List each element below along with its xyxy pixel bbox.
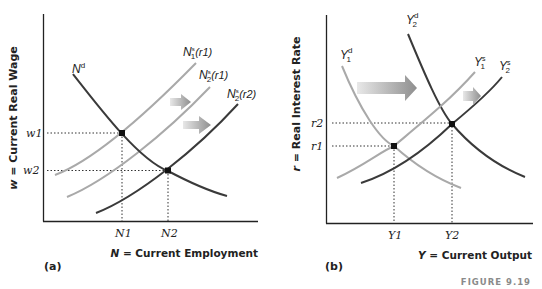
equilibrium-point-1	[119, 130, 125, 136]
tick-r1: r1	[311, 140, 323, 153]
label-y1d: Yd1	[340, 46, 352, 64]
tick-n2: N2	[160, 227, 178, 240]
figure-caption: FIGURE 9.19	[461, 277, 531, 287]
label-y2s: Ys2	[499, 59, 511, 75]
panel-a-y-axis-label: w = Current Real Wage	[7, 46, 20, 190]
figure-canvas: w = Current Real Wage Nd Ns1(r1) Ns2(r1)…	[0, 0, 542, 289]
curve-y2d	[408, 34, 525, 177]
panel-b-label: (b)	[325, 260, 343, 273]
curve-n2s-r2	[96, 104, 238, 213]
equilibrium-point-2	[449, 121, 455, 127]
shift-arrow-icon	[183, 116, 211, 134]
label-y1s: Ys1	[474, 55, 486, 71]
tick-w1: w1	[26, 127, 42, 140]
label-y2d: Yd2	[406, 11, 418, 29]
equilibrium-point-2	[165, 168, 171, 174]
tick-n1: N1	[114, 227, 132, 240]
panel-b-y-axis-label: r = Real Interest Rate	[290, 36, 303, 171]
label-n1s-r1: Ns1(r1)	[183, 45, 213, 61]
panel-a-label: (a)	[44, 260, 61, 273]
curve-n1s-r1	[55, 63, 196, 175]
panel-b: r = Real Interest Rate Yd1 Yd2 Ys1 Ys2 r…	[290, 11, 533, 273]
panel-b-x-axis-label: Y = Current Output	[418, 249, 532, 261]
tick-w2: w2	[23, 164, 39, 177]
tick-y1: Y1	[388, 229, 402, 242]
equilibrium-point-1	[391, 143, 397, 149]
panel-a-x-axis-label: N = Current Employment	[110, 247, 258, 259]
shift-arrow-large-icon	[357, 75, 417, 101]
label-nd: Nd	[72, 61, 85, 76]
label-n2s-r2: Ns2(r2)	[227, 87, 257, 103]
panel-b-guides	[332, 123, 452, 223]
label-n2s-r1: Ns2(r1)	[199, 68, 229, 84]
tick-r2: r2	[311, 117, 323, 130]
shift-arrow-icon	[170, 94, 191, 110]
tick-y2: Y2	[445, 229, 459, 242]
panel-a: w = Current Real Wage Nd Ns1(r1) Ns2(r1)…	[7, 14, 258, 273]
